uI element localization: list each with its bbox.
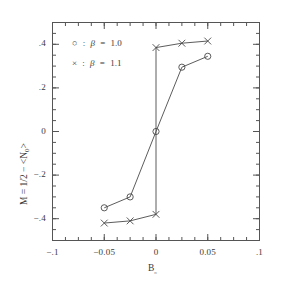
legend-separator: : — [80, 38, 89, 48]
y-axis-title-tail: > — [19, 143, 29, 148]
legend-value: 1.1 — [110, 58, 121, 68]
y-tick-label: .2 — [0, 82, 46, 92]
series-line — [104, 41, 208, 223]
y-tick-label: .4 — [0, 38, 46, 48]
legend-marker-cross-icon: × — [72, 58, 77, 68]
y-axis-title-subscript: 0 — [23, 148, 31, 152]
figure-container: .4.20−.2−.4 −.1−0.0500.05.1 M = 1/2 − <N… — [0, 0, 299, 287]
legend-separator: : — [79, 58, 88, 68]
legend-param-beta: β — [90, 38, 97, 48]
y-tick-label: 0 — [0, 126, 46, 136]
legend-value: 1.0 — [111, 38, 122, 48]
legend-entry-beta-1-0: ○ : β = 1.0 — [72, 38, 122, 48]
legend-entry-beta-1-1: × : β = 1.1 — [72, 58, 121, 68]
legend-marker-circle-icon: ○ — [72, 38, 77, 48]
x-axis-title-subscript: ₀ — [154, 267, 156, 275]
y-axis-title-main: M = 1/2 − <N — [19, 152, 29, 205]
legend-equals: = — [100, 58, 108, 68]
legend-param-beta: β — [90, 58, 97, 68]
x-tick-label: .1 — [230, 247, 290, 257]
legend-equals: = — [100, 38, 108, 48]
y-axis-title: M = 1/2 − <N0> — [19, 143, 31, 205]
y-tick-label: −.4 — [0, 213, 46, 223]
x-axis-title: B₀ — [148, 263, 157, 275]
